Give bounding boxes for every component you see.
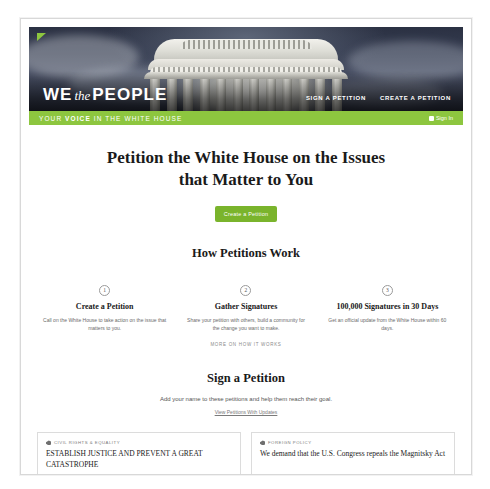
petition-category-label: CIVIL RIGHTS & EQUALITY — [54, 440, 120, 445]
step-number: 3 — [382, 285, 393, 296]
sign-a-petition-title: Sign a Petition — [37, 371, 455, 386]
petition-card[interactable]: CIVIL RIGHTS & EQUALITY ESTABLISH JUSTIC… — [37, 432, 241, 475]
petition-card-list: CIVIL RIGHTS & EQUALITY ESTABLISH JUSTIC… — [37, 432, 455, 475]
hero-banner: WEthePEOPLE SIGN A PETITION CREATE A PET… — [29, 27, 463, 111]
petition-category-tag[interactable]: CIVIL RIGHTS & EQUALITY — [46, 440, 232, 445]
tagline-suffix: IN THE WHITE HOUSE — [91, 115, 183, 122]
site-logo[interactable]: WEthePEOPLE — [43, 85, 167, 105]
step-description: Call on the White House to take action o… — [43, 316, 166, 333]
step-signatures-in-30-days: 3 100,000 Signatures in 30 Days Get an o… — [320, 278, 455, 333]
tagline-emphasis: VOICE — [65, 115, 91, 122]
main-content: Petition the White House on the Issues t… — [21, 147, 471, 475]
page-title: Petition the White House on the Issues t… — [96, 147, 396, 191]
step-create-a-petition: 1 Create a Petition Call on the White Ho… — [37, 278, 172, 333]
sign-in-label: Sign In — [436, 115, 453, 121]
how-it-works-title: How Petitions Work — [37, 246, 455, 261]
logo-the: the — [72, 88, 92, 103]
step-description: Get an official update from the White Ho… — [326, 316, 449, 333]
petition-category-label: FOREIGN POLICY — [268, 440, 312, 445]
step-description: Share your petition with others, build a… — [184, 316, 307, 333]
petition-title[interactable]: We demand that the U.S. Congress repeals… — [260, 449, 446, 471]
petition-category-tag[interactable]: FOREIGN POLICY — [260, 440, 446, 445]
logo-we: WE — [43, 85, 72, 104]
tag-icon — [46, 440, 51, 445]
primary-cta-wrapper: Create a Petition — [37, 202, 455, 222]
header-nav: SIGN A PETITION CREATE A PETITION — [306, 95, 451, 101]
step-gather-signatures: 2 Gather Signatures Share your petition … — [178, 278, 313, 333]
tagline-bar: YOUR VOICE IN THE WHITE HOUSE Sign In — [29, 111, 463, 125]
step-title: Gather Signatures — [184, 302, 307, 311]
tag-icon — [260, 440, 265, 445]
more-on-how-it-works-link[interactable]: MORE ON HOW IT WORKS — [37, 342, 455, 347]
petition-title[interactable]: ESTABLISH JUSTICE AND PREVENT A GREAT CA… — [46, 449, 232, 471]
lock-icon — [429, 116, 434, 121]
create-petition-button[interactable]: Create a Petition — [215, 206, 277, 222]
petition-card[interactable]: FOREIGN POLICY We demand that the U.S. C… — [251, 432, 455, 475]
browser-page: WEthePEOPLE SIGN A PETITION CREATE A PET… — [20, 18, 472, 475]
step-number: 1 — [99, 285, 110, 296]
view-petitions-with-updates-link[interactable]: View Petitions With Updates — [37, 409, 455, 415]
tagline-prefix: YOUR — [39, 115, 65, 122]
tagline-notch-decoration — [37, 33, 46, 41]
dome-balustrade — [180, 40, 312, 49]
sign-a-petition-subtitle: Add your name to these petitions and hel… — [37, 396, 455, 402]
tagline-text: YOUR VOICE IN THE WHITE HOUSE — [39, 115, 182, 122]
nav-sign-a-petition[interactable]: SIGN A PETITION — [306, 95, 366, 101]
nav-create-a-petition[interactable]: CREATE A PETITION — [380, 95, 451, 101]
step-title: 100,000 Signatures in 30 Days — [326, 302, 449, 311]
step-title: Create a Petition — [43, 302, 166, 311]
sign-in-button[interactable]: Sign In — [429, 115, 453, 121]
step-number: 2 — [240, 285, 251, 296]
logo-people: PEOPLE — [92, 85, 167, 104]
how-it-works-steps: 1 Create a Petition Call on the White Ho… — [37, 278, 455, 333]
